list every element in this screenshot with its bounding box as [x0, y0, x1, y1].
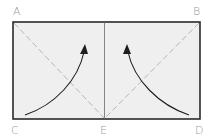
fold-diagram: A B C E D: [0, 0, 213, 139]
point-label-c: C: [11, 124, 19, 137]
point-label-e: E: [100, 124, 107, 137]
paper-rectangle: [13, 22, 200, 119]
point-label-b: B: [193, 5, 200, 18]
point-label-d: D: [195, 124, 203, 137]
point-label-a: A: [13, 5, 21, 18]
